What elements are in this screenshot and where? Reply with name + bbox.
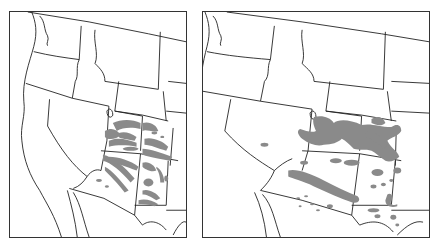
- western-us-map-left: [10, 12, 186, 237]
- shaded-regions: [260, 116, 401, 226]
- map-panel-left: [9, 11, 187, 238]
- state-borders: [21, 12, 186, 237]
- map-panel-right: [202, 11, 430, 238]
- shaded-regions: [96, 120, 172, 206]
- western-us-map-right: [203, 12, 429, 237]
